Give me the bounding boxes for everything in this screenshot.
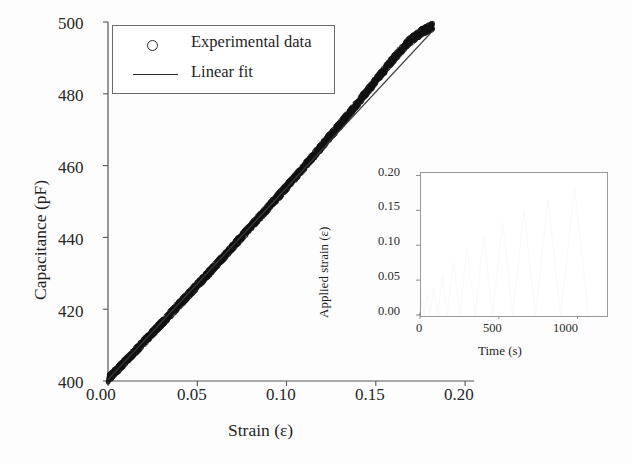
legend-label-experimental-data: Experimental data	[191, 32, 312, 52]
x-tick-label-0-05: 0.05	[177, 385, 207, 405]
open-circle-marker-icon	[147, 40, 158, 51]
inset-plot-frame	[420, 172, 608, 317]
inset-y-tick-label-0-10: 0.10	[378, 234, 400, 249]
y-tick-label-440: 440	[58, 230, 84, 250]
y-tick-label-420: 420	[58, 302, 84, 322]
inset-y-tick-label-0-15: 0.15	[378, 199, 400, 214]
line-marker-icon	[133, 74, 178, 75]
y-tick-label-460: 460	[58, 158, 84, 178]
x-tick-label-0-00: 0.00	[86, 385, 116, 405]
inset-y-tick-label-0-20: 0.20	[378, 165, 400, 180]
inset-y-tick-label-0-00: 0.00	[378, 304, 400, 319]
y-tick-label-500: 500	[58, 14, 84, 34]
y-axis-ticks	[103, 22, 108, 381]
legend-entry-experimental-data: Experimental data	[113, 30, 334, 60]
inset-y-axis-title: Applied strain (ε)	[316, 227, 332, 318]
inset-x-tick-label-1000: 1000	[553, 321, 578, 336]
y-axis-title: Capacitance (pF)	[30, 180, 51, 300]
legend: Experimental data Linear fit	[112, 25, 335, 94]
y-tick-label-480: 480	[58, 86, 84, 106]
x-tick-label-0-10: 0.10	[266, 385, 296, 405]
legend-entry-linear-fit: Linear fit	[113, 60, 334, 90]
x-tick-label-0-20: 0.20	[444, 385, 474, 405]
inset-x-axis-title: Time (s)	[478, 343, 522, 359]
x-axis-title: Strain (ε)	[228, 420, 293, 441]
x-tick-label-0-15: 0.15	[355, 385, 385, 405]
legend-label-linear-fit: Linear fit	[191, 62, 253, 82]
inset-x-tick-label-500: 500	[483, 321, 502, 336]
figure-capacitance-vs-strain: Capacitance (pF) 500 480 460 440 420 400…	[0, 0, 632, 464]
inset-y-tick-label-0-05: 0.05	[378, 269, 400, 284]
y-tick-label-400: 400	[58, 373, 84, 393]
inset-x-tick-label-0: 0	[416, 321, 422, 336]
